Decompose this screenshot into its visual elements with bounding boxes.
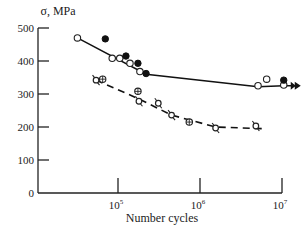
lower-fit-line: [96, 80, 263, 129]
open-circle-tail-marker: [93, 77, 99, 83]
lower-crossed-point: [135, 88, 141, 94]
lower-open-tailed-point: [212, 123, 219, 133]
y-tick-label: 400: [18, 55, 35, 67]
y-tick-label: 200: [18, 121, 35, 133]
open-circle-marker: [117, 55, 123, 61]
upper-filled-point: [143, 70, 149, 76]
open-circle-tail-marker: [155, 100, 161, 106]
upper-filled-point: [102, 36, 108, 42]
y-tick-label: 100: [18, 154, 35, 166]
open-circle-marker: [74, 35, 80, 41]
open-circle-marker: [255, 83, 261, 89]
x-tick-label: 107: [273, 198, 288, 211]
x-tick-exponent: 7: [284, 198, 288, 206]
x-tick-exponent: 6: [202, 198, 206, 206]
y-tick-label: 0: [29, 187, 35, 199]
upper-filled-point: [281, 77, 287, 83]
y-tick-label: 500: [18, 22, 35, 34]
upper-open-point: [255, 83, 261, 89]
open-circle-marker: [137, 68, 143, 74]
x-tick-exponent: 5: [120, 198, 124, 206]
lower-open-tailed-point: [135, 96, 142, 106]
fit-lines: [77, 38, 300, 129]
open-circle-marker: [263, 76, 269, 82]
filled-circle-marker: [281, 77, 287, 83]
upper-open-point: [137, 68, 143, 74]
upper-open-point: [263, 76, 269, 82]
open-circle-marker: [109, 55, 115, 61]
filled-circle-marker: [123, 53, 129, 59]
lower-open-tailed-point: [252, 121, 259, 131]
x-ticks: 105106107: [109, 178, 288, 211]
axes: [38, 28, 282, 193]
upper-open-point: [127, 60, 133, 66]
x-tick-label: 106: [191, 198, 206, 211]
open-circle-tail-marker: [253, 123, 259, 129]
open-circle-tail-marker: [169, 112, 175, 118]
open-circle-marker: [127, 60, 133, 66]
y-tick-label: 300: [18, 88, 35, 100]
upper-filled-point: [123, 53, 129, 59]
filled-circle-marker: [135, 60, 141, 66]
upper-fit-line: [77, 38, 283, 87]
filled-circle-marker: [143, 70, 149, 76]
upper-open-point: [74, 35, 80, 41]
lower-open-tailed-point: [93, 75, 100, 85]
arrow-head-icon: [295, 82, 301, 90]
open-circle-tail-marker: [213, 125, 219, 131]
x-axis-title: Number cycles: [126, 211, 199, 225]
filled-circle-marker: [102, 36, 108, 42]
upper-open-point: [117, 55, 123, 61]
lower-crossed-point: [99, 76, 105, 82]
data-points: [74, 35, 287, 133]
lower-open-tailed-point: [168, 110, 175, 120]
open-circle-tail-marker: [136, 98, 142, 104]
lower-crossed-point: [186, 119, 192, 125]
y-axis-title: σ, MPa: [40, 4, 76, 18]
fatigue-chart: 0100200300400500 105106107 σ, MPa Number…: [0, 0, 305, 233]
upper-open-point: [109, 55, 115, 61]
y-ticks: 0100200300400500: [18, 22, 50, 199]
x-tick-label: 105: [109, 198, 124, 211]
upper-filled-point: [135, 60, 141, 66]
